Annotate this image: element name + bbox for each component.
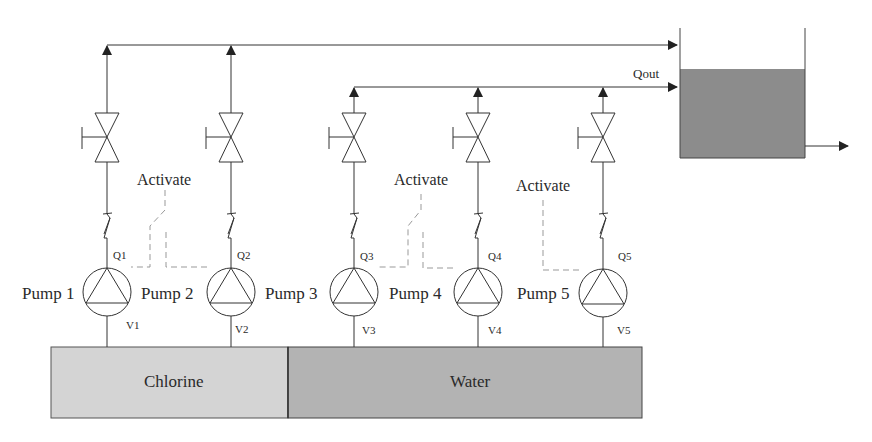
pump-branch-4 (453, 88, 502, 347)
pump-system-diagram: Qout Activate Activate Activate Chlorine… (0, 0, 872, 442)
check-valve-icon-5 (599, 213, 608, 238)
check-valve-icon-3 (350, 213, 359, 238)
pump-branch-5 (578, 88, 627, 347)
pump-label-4: Pump 4 (389, 284, 442, 303)
pump-label-2: Pump 2 (141, 284, 193, 303)
check-valve-icon-1 (103, 213, 112, 238)
chlorine-label: Chlorine (144, 372, 204, 391)
activate-control-lines (131, 190, 580, 270)
activate-label-1: Activate (137, 171, 191, 188)
gate-valve-icon-5[interactable] (578, 113, 615, 162)
valve-label-4: V4 (488, 324, 502, 336)
pump-branch-3 (329, 88, 378, 347)
pump-icon-4[interactable] (454, 268, 502, 316)
activate-label-2: Activate (394, 171, 448, 188)
flow-label-1: Q1 (113, 249, 126, 261)
pump-branch-2 (206, 46, 255, 347)
water-label: Water (450, 372, 490, 391)
gate-valve-icon-1[interactable] (82, 113, 119, 162)
qout-label: Qout (633, 66, 659, 81)
flow-label-3: Q3 (360, 250, 374, 262)
pump-icon-2[interactable] (207, 268, 255, 316)
check-valve-icon-4 (474, 213, 483, 238)
pump-label-5: Pump 5 (517, 284, 569, 303)
valve-label-1: V1 (126, 319, 139, 331)
pump-label-1: Pump 1 (22, 284, 74, 303)
pump-icon-1[interactable] (83, 268, 131, 316)
valve-label-2: V2 (235, 323, 248, 335)
flow-label-2: Q2 (237, 249, 250, 261)
pump-icon-3[interactable] (330, 268, 378, 316)
valve-label-3: V3 (362, 324, 376, 336)
gate-valve-icon-3[interactable] (329, 113, 366, 162)
product-tank (680, 28, 805, 158)
gate-valve-icon-2[interactable] (206, 113, 243, 162)
flow-label-5: Q5 (618, 250, 632, 262)
gate-valve-icon-4[interactable] (453, 113, 490, 162)
check-valve-icon-2 (227, 213, 236, 238)
activate-label-3: Activate (516, 177, 570, 194)
pump-icon-5[interactable] (579, 269, 627, 317)
pump-label-3: Pump 3 (265, 284, 317, 303)
pump-branch-1 (82, 46, 131, 347)
flow-label-4: Q4 (488, 250, 502, 262)
valve-label-5: V5 (617, 324, 631, 336)
